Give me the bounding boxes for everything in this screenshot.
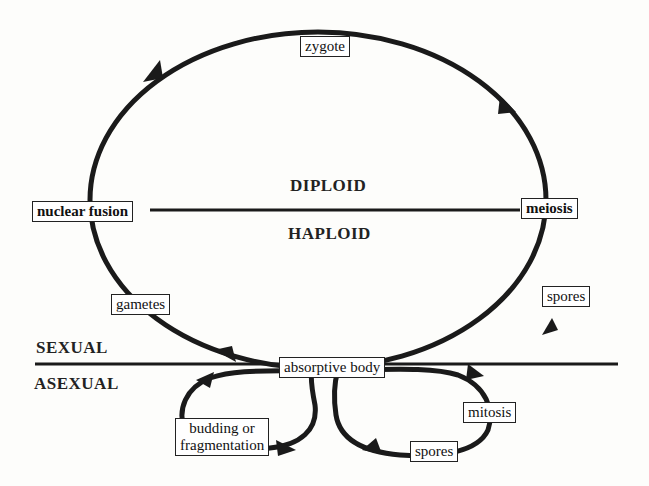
budding-label-line1: budding or bbox=[180, 420, 264, 437]
budding-fragmentation-node: budding or fragmentation bbox=[175, 418, 269, 456]
gametes-node: gametes bbox=[111, 294, 170, 315]
asexual-region-label: ASEXUAL bbox=[34, 374, 119, 394]
meiosis-node: meiosis bbox=[521, 198, 578, 219]
spores-asexual-node: spores bbox=[410, 441, 458, 462]
sexual-cycle-loop bbox=[90, 32, 546, 368]
zygote-node: zygote bbox=[300, 36, 350, 57]
spores-sexual-node: spores bbox=[542, 286, 590, 307]
mitosis-node: mitosis bbox=[463, 402, 516, 423]
diploid-region-label: DIPLOID bbox=[290, 176, 366, 196]
arrow-icon bbox=[466, 364, 484, 380]
nuclear-fusion-node: nuclear fusion bbox=[32, 201, 133, 222]
budding-label-line2: fragmentation bbox=[180, 437, 264, 454]
absorptive-body-node: absorptive body bbox=[279, 357, 385, 378]
arrow-icon bbox=[498, 96, 516, 114]
sexual-region-label: SEXUAL bbox=[36, 338, 108, 358]
arrow-icon bbox=[542, 318, 558, 335]
haploid-region-label: HAPLOID bbox=[288, 224, 371, 244]
